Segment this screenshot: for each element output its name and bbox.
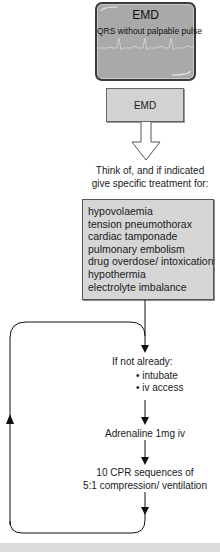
- bullet-item: • iv access: [136, 382, 183, 394]
- if-not-already-list: • intubate • iv access: [136, 370, 183, 394]
- bullet-item: • intubate: [136, 370, 183, 382]
- cpr-step: 10 CPR sequences of 5:1 compression/ ven…: [72, 466, 218, 492]
- if-not-already-heading: If not already:: [112, 356, 173, 367]
- cpr-line-2: 5:1 compression/ ventilation: [72, 479, 218, 492]
- adrenaline-step: Adrenaline 1mg iv: [80, 428, 210, 439]
- cpr-line-1: 10 CPR sequences of: [72, 466, 218, 479]
- bottom-bar: [0, 543, 220, 552]
